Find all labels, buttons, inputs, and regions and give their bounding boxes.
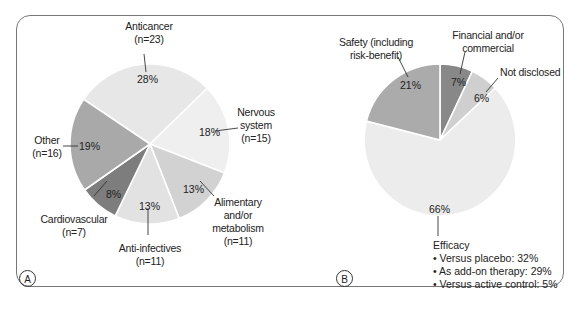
label-safety-line1: Safety (including (336, 36, 416, 49)
label-cardio-n: (n=7) (34, 226, 114, 239)
label-efficacy-name: Efficacy (433, 239, 557, 252)
label-nervous-system: Nervous system (n=15) (234, 106, 278, 145)
efficacy-versus-active-control: • Versus active control: 5% (433, 278, 557, 291)
label-other-n: (n=16) (30, 147, 64, 160)
label-anticancer-n: (n=23) (116, 33, 182, 46)
label-cardiovascular: Cardiovascular (n=7) (34, 213, 114, 239)
label-antiinf-n: (n=11) (112, 255, 188, 268)
pct-alimentary: 13% (183, 183, 204, 195)
efficacy-versus-placebo: • Versus placebo: 32% (433, 252, 557, 265)
label-alimentary-line1: Alimentary (208, 196, 268, 209)
panel-tag-a: A (19, 270, 36, 287)
pct-anticancer: 28% (137, 73, 158, 85)
label-not-disclosed: Not disclosed (500, 66, 562, 79)
label-financial-line2: commercial (448, 42, 528, 55)
label-other: Other (n=16) (30, 134, 64, 160)
label-anti-infectives: Anti-infectives (n=11) (112, 242, 188, 268)
pct-anti-infectives: 13% (139, 200, 160, 212)
pie-chart-b (364, 64, 516, 216)
label-alimentary: Alimentary and/or metabolism (n=11) (208, 196, 268, 248)
pct-financial: 7% (451, 76, 466, 88)
label-efficacy: Efficacy • Versus placebo: 32% • As add-… (433, 239, 557, 291)
pct-other: 19% (79, 140, 100, 152)
pct-nervous-system: 18% (199, 126, 220, 138)
pct-safety: 21% (400, 79, 421, 91)
label-antiinf-name: Anti-infectives (112, 242, 188, 255)
label-nervous-line1: Nervous (234, 106, 278, 119)
label-safety-line2: risk-benefit) (336, 49, 416, 62)
label-safety: Safety (including risk-benefit) (336, 36, 416, 62)
label-other-name: Other (30, 134, 64, 147)
label-alimentary-line3: metabolism (208, 222, 268, 235)
label-financial: Financial and/or commercial (448, 29, 528, 55)
label-alimentary-n: (n=11) (208, 235, 268, 248)
pct-cardiovascular: 8% (106, 188, 121, 200)
label-financial-line1: Financial and/or (448, 29, 528, 42)
label-nervous-line2: system (234, 119, 278, 132)
label-anticancer: Anticancer (n=23) (116, 20, 182, 46)
label-anticancer-name: Anticancer (116, 20, 182, 33)
pct-efficacy: 66% (429, 203, 450, 215)
label-alimentary-line2: and/or (208, 209, 268, 222)
efficacy-add-on-therapy: • As add-on therapy: 29% (433, 265, 557, 278)
label-nervous-n: (n=15) (234, 132, 278, 145)
pct-not-disclosed: 6% (474, 92, 489, 104)
label-cardio-name: Cardiovascular (34, 213, 114, 226)
panel-tag-b: B (336, 270, 353, 287)
